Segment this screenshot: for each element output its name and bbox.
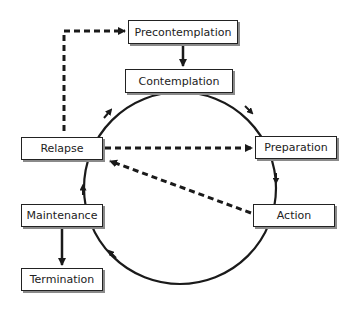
stage-preparation: Preparation (255, 136, 337, 159)
stage-action: Action (253, 204, 335, 227)
arrow-contemplation-to-preparation (245, 106, 251, 112)
stage-contemplation: Contemplation (125, 69, 233, 93)
arrow-relapse-to-contemplation (104, 111, 110, 118)
stage-label: Precontemplation (135, 26, 232, 39)
stage-termination: Termination (21, 268, 103, 291)
stage-label: Relapse (40, 142, 83, 155)
stage-label: Contemplation (138, 75, 219, 88)
dashed-arrow-action-to-relapse (110, 161, 251, 213)
stage-label: Preparation (264, 141, 328, 154)
stage-label: Action (277, 209, 311, 222)
stage-label: Maintenance (27, 209, 98, 222)
stage-precontemplation: Precontemplation (128, 20, 238, 44)
stage-label: Termination (30, 273, 95, 286)
stage-maintenance: Maintenance (21, 204, 103, 227)
stage-relapse: Relapse (21, 137, 103, 160)
